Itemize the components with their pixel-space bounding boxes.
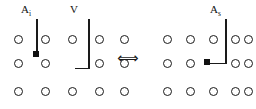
lattice-site [68,87,77,96]
lattice-site [186,35,195,44]
lattice-site [95,59,104,68]
lattice-site [231,59,240,68]
left-adsorbate-symbol: A [21,3,29,15]
lattice-site [95,87,104,96]
vacancy-pointer-line [88,19,90,69]
adsorbate-pointer-hook [210,63,226,65]
lattice-site [120,87,129,96]
lattice-site [95,35,104,44]
lattice-site [244,59,253,68]
lattice-site [186,87,195,96]
lattice-site [209,35,218,44]
lattice-site [186,59,195,68]
left-adsorbate-subscript: i [29,9,31,18]
lattice-site [163,59,172,68]
adsorbate-pointer-line [36,19,38,55]
adatom-marker [204,59,210,65]
left-adsorbate-label: Ai [21,4,31,18]
lattice-site [41,35,50,44]
lattice-site [14,35,23,44]
defect-equivalence-diagram: Ai V ⟺ As [0,0,256,109]
lattice-site [231,87,240,96]
lattice-site [14,87,23,96]
lattice-site [209,87,218,96]
right-adsorbate-label: As [210,4,221,18]
lattice-site [41,87,50,96]
lattice-site [244,35,253,44]
lattice-site [120,35,129,44]
lattice-site [163,87,172,96]
lattice-site [244,87,253,96]
adsorbate-pointer-line [225,19,227,64]
vacancy-label: V [70,4,78,15]
vacancy-symbol: V [70,3,78,15]
vacancy-pointer-hook [75,68,89,70]
right-adsorbate-subscript: s [218,9,221,18]
lattice-site [231,35,240,44]
lattice-site [68,35,77,44]
lattice-site [163,35,172,44]
lattice-site [41,59,50,68]
adatom-marker [33,51,39,57]
right-adsorbate-symbol: A [210,3,218,15]
lattice-site [14,59,23,68]
equivalence-arrow-icon: ⟺ [117,51,138,66]
